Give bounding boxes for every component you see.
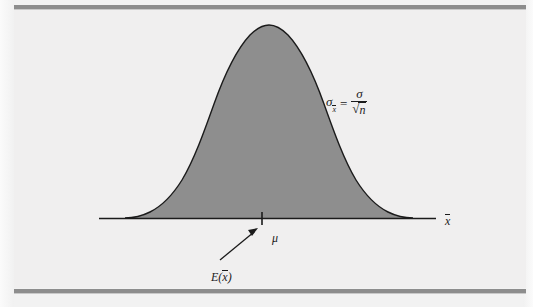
normal-curve-chart [14, 10, 526, 288]
expectation-label: E(x) [211, 271, 232, 283]
expectation-pointer-arrowhead [248, 228, 258, 236]
bottom-divider-rule [14, 289, 526, 293]
top-divider-rule [14, 5, 526, 9]
formula-lhs: σx [326, 95, 336, 112]
x-axis-label-text: x [445, 215, 450, 227]
standard-error-formula: σx = σ √n [326, 88, 367, 118]
page-edge-left [0, 0, 14, 307]
expectation-label-xbar: x [222, 271, 227, 283]
formula-numerator: σ [354, 87, 364, 101]
expectation-label-e: E( [211, 270, 222, 284]
x-axis-label: x [445, 215, 450, 227]
expectation-pointer-line [220, 232, 254, 260]
normal-curve-shaded-area [125, 25, 413, 218]
expectation-label-close: ) [228, 270, 232, 284]
mean-label: μ [272, 232, 278, 244]
formula-denominator: √n [351, 102, 367, 117]
plot-area: σx = σ √n x μ E(x) [14, 10, 526, 288]
formula-equals-sign: = [340, 97, 347, 110]
formula-radicand: n [358, 102, 366, 117]
formula-fraction: σ √n [351, 87, 367, 117]
figure-container: σx = σ √n x μ E(x) [0, 0, 533, 307]
formula-subscript-xbar: x [332, 106, 336, 114]
